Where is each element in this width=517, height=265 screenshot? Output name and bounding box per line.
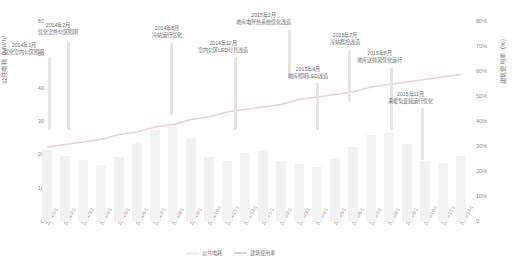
legend-label: 公共电耗	[202, 249, 222, 257]
energy-consumption-chart: 公共电耗（MWh） 建筑使用率（%） 0102030405060 010%20%…	[0, 0, 517, 265]
secondary-y-tick-label: 50%	[476, 94, 487, 100]
legend-swatch	[234, 252, 247, 253]
annotation-stem	[316, 83, 319, 130]
chart-legend: 公共电耗建筑使用率	[186, 249, 275, 257]
legend-label: 建筑使用率	[250, 249, 275, 257]
annotation-label: 2015年8月地库送排风优化运行	[357, 50, 402, 64]
secondary-y-tick-label: 60%	[476, 69, 487, 75]
secondary-y-tick-label: 0	[476, 219, 479, 225]
annotation-stem	[170, 43, 173, 115]
secondary-y-tick-label: 80%	[476, 19, 487, 25]
annotation-label: 2015年4月地库照明LED改造	[288, 66, 328, 80]
annotation-date: 2015年11月	[388, 91, 433, 98]
legend-item: 公共电耗	[186, 249, 222, 257]
annotation-label: 2015年2月地库电伴热系统优化改造	[236, 12, 291, 26]
secondary-y-tick-label: 10%	[476, 194, 487, 200]
annotation-label: 2014年1月优化室内公区照明	[4, 42, 44, 56]
annotation-label: 2014年12月室内公区LED灯具改造	[198, 40, 248, 54]
annotation-measure: 地库送排风优化运行	[357, 57, 402, 64]
annotation-measure: 冷站运行优化	[152, 32, 182, 39]
annotation-measure: 采暖泵变频运行优化	[388, 98, 433, 105]
annotation-label: 2014年8月冷站运行优化	[152, 25, 182, 39]
secondary-y-tick-label: 40%	[476, 119, 487, 125]
annotation-stem	[234, 57, 237, 130]
annotation-date: 2014年12月	[198, 40, 248, 47]
annotation-measure: 优化室内公区照明	[4, 49, 44, 56]
secondary-y-tick-label: 70%	[476, 44, 487, 50]
annotation-date: 2015年8月	[357, 50, 402, 57]
annotation-stem	[421, 108, 424, 160]
annotation-measure: 室内公区LED灯具改造	[198, 47, 248, 54]
annotation-measure: 冷站群控改造	[330, 39, 360, 46]
annotation-date: 2014年8月	[152, 25, 182, 32]
annotation-measure: 地库电伴热系统优化改造	[236, 19, 291, 26]
annotation-label: 2014年2月优化室外公区照明	[38, 22, 78, 36]
annotation-label: 2015年7月冷站群控改造	[330, 32, 360, 46]
annotation-date: 2014年2月	[38, 22, 78, 29]
secondary-y-axis-label: 建筑使用率（%）	[498, 0, 507, 84]
annotation-date: 2015年7月	[330, 32, 360, 39]
legend-swatch	[186, 252, 199, 255]
annotation-date: 2014年1月	[4, 42, 44, 49]
legend-item: 建筑使用率	[234, 249, 275, 257]
annotation-stem	[348, 50, 351, 102]
secondary-y-tick-label: 20%	[476, 169, 487, 175]
occupancy-rate-line	[38, 22, 470, 222]
annotation-stem	[67, 42, 70, 130]
annotation-date: 2015年2月	[236, 12, 291, 19]
secondary-y-tick-label: 30%	[476, 144, 487, 150]
annotation-label: 2015年11月采暖泵变频运行优化	[388, 91, 433, 105]
annotation-measure: 优化室外公区照明	[38, 29, 78, 36]
annotation-measure: 地库照明LED改造	[288, 73, 328, 80]
annotation-date: 2015年4月	[288, 66, 328, 73]
annotation-stem	[48, 58, 51, 130]
